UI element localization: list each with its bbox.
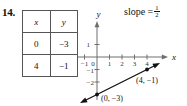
point-label-origin-intercept: (0, −3) (101, 94, 123, 103)
y-axis-label: y (96, 9, 101, 19)
table-cell-x: 4 (23, 55, 51, 77)
y-tick-label: 1 (87, 41, 91, 49)
table-cell-y: −3 (50, 33, 78, 55)
table-row: 4 −1 (23, 55, 78, 77)
table-row: 0 −3 (23, 33, 78, 55)
worksheet-problem-figure: 14. x y 0 −3 4 −1 slope =12 (0, 0, 187, 106)
xy-value-table: x y 0 −3 4 −1 (22, 10, 78, 77)
x-tick-label: 3 (133, 60, 137, 68)
y-tick-label: −2 (87, 79, 95, 87)
point-marker-4-neg1 (145, 68, 149, 72)
table-cell-y: −1 (50, 55, 78, 77)
y-tick-label: −1 (87, 67, 95, 75)
problem-number: 14. (2, 6, 15, 18)
coordinate-plane-figure: y x −1 1 2 3 4 0 1 −1 −2 (78, 4, 187, 106)
coordinate-plane-svg: y x −1 1 2 3 4 0 1 −1 −2 (78, 4, 187, 106)
table-header-y: y (50, 11, 78, 33)
x-tick-label: 2 (120, 60, 124, 68)
y-axis (95, 21, 100, 100)
x-tick-label: 1 (108, 60, 112, 68)
point-marker-0-neg3 (95, 93, 99, 97)
table-cell-x: 0 (23, 33, 51, 55)
x-tick-label: 4 (145, 60, 149, 68)
point-label-second-point: (4, −1) (136, 76, 158, 85)
table-header-row: x y (23, 11, 78, 33)
x-axis-label: x (171, 52, 176, 62)
table-header-x: x (23, 11, 51, 33)
x-axis (78, 55, 168, 60)
